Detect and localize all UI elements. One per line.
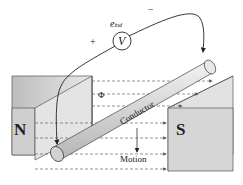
north-pole-label: N [14, 120, 26, 140]
minus-sign: − [148, 4, 154, 15]
flux-label: Φ [98, 90, 105, 100]
plus-sign: + [90, 36, 96, 47]
south-pole-label: S [176, 120, 185, 140]
emf-label: eind [110, 18, 122, 29]
voltmeter-label: V [118, 34, 125, 49]
motion-label: Motion [120, 154, 147, 164]
generator-diagram: N S V eind + − Φ Conductor Motion [0, 0, 243, 185]
